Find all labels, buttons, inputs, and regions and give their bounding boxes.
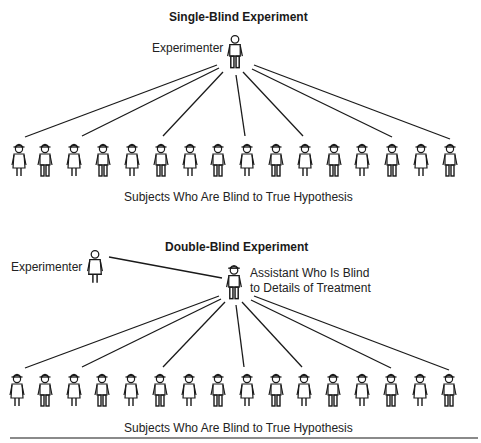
- single-blind-subjects-row: [12, 145, 457, 177]
- subject-icon: [67, 145, 81, 177]
- subject-icon: [10, 375, 24, 407]
- subject-icon: [442, 375, 456, 407]
- double-blind-experimenter-icon: [88, 251, 103, 283]
- subject-icon: [443, 145, 457, 177]
- subject-icon: [269, 375, 283, 407]
- subject-icon: [297, 375, 311, 407]
- subject-icon: [384, 375, 398, 407]
- subject-icon: [183, 145, 197, 177]
- subject-icon: [95, 375, 109, 407]
- subject-icon: [211, 375, 225, 407]
- subject-icon: [240, 375, 254, 407]
- subject-icon: [38, 375, 52, 407]
- subject-icon: [153, 375, 167, 407]
- assistant-icon: [227, 266, 242, 299]
- subject-icon: [414, 145, 428, 177]
- subject-icon: [211, 145, 225, 177]
- subject-icon: [96, 145, 110, 177]
- subject-icon: [240, 145, 254, 177]
- subject-icon: [355, 375, 369, 407]
- subject-icon: [67, 375, 81, 407]
- subject-icon: [298, 145, 312, 177]
- double-blind-connector-lines: [25, 296, 449, 370]
- subject-icon: [355, 145, 369, 177]
- subject-icon: [269, 145, 283, 177]
- subject-icon: [124, 375, 138, 407]
- experimenter-to-assistant-line: [109, 257, 222, 278]
- single-blind-connector-lines: [25, 65, 450, 139]
- subject-icon: [38, 145, 52, 177]
- subject-icon: [182, 375, 196, 407]
- subject-icon: [12, 145, 26, 177]
- subject-icon: [125, 145, 139, 177]
- double-blind-subjects-row: [10, 375, 456, 407]
- subject-icon: [413, 375, 427, 407]
- subject-icon: [385, 145, 399, 177]
- subject-icon: [326, 375, 340, 407]
- subject-icon: [154, 145, 168, 177]
- diagram-canvas: [0, 0, 481, 443]
- subject-icon: [327, 145, 341, 177]
- single-blind-experimenter-icon: [228, 36, 243, 68]
